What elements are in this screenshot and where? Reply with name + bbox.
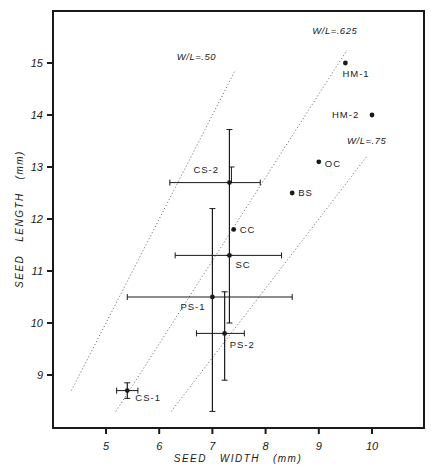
- ratio-line-label: W/L=.75: [347, 135, 386, 146]
- data-point-label: CS-1: [135, 392, 161, 403]
- x-tick-label: 8: [263, 440, 270, 452]
- x-axis-title: SEED WIDTH (mm): [174, 453, 303, 464]
- ratio-line: [71, 71, 235, 391]
- data-point-marker: [231, 227, 236, 232]
- ratio-line: [116, 50, 347, 411]
- data-point-marker: [370, 113, 375, 118]
- y-tick-label: 10: [31, 317, 44, 329]
- ratio-line: [171, 157, 367, 412]
- y-tick-label: 14: [31, 109, 43, 121]
- x-tick-label: 10: [366, 440, 379, 452]
- data-point-group: PS-1: [127, 209, 292, 412]
- y-axis: 9101112131415: [31, 57, 53, 381]
- data-point-label: CS-2: [193, 164, 219, 175]
- y-tick-label: 9: [37, 369, 43, 381]
- x-tick-label: 6: [156, 440, 163, 452]
- data-point-marker: [222, 331, 227, 336]
- data-point-label: OC: [325, 158, 341, 169]
- data-point-group: CC: [231, 224, 255, 235]
- y-tick-label: 12: [31, 213, 43, 225]
- x-tick-label: 7: [209, 440, 216, 452]
- data-point-label: SC: [235, 259, 250, 270]
- data-point-marker: [125, 388, 130, 393]
- seed-dimension-scatter-chart: W/L=.50W/L=.625W/L=.75 5678910 910111213…: [0, 0, 431, 471]
- data-point-marker: [227, 253, 232, 258]
- x-tick-label: 5: [103, 440, 110, 452]
- data-point-group: HM-1: [342, 61, 369, 79]
- data-point-label: BS: [298, 187, 313, 198]
- x-axis: 5678910: [103, 428, 379, 452]
- data-point-marker: [316, 159, 321, 164]
- y-axis-title: SEED LENGTH (mm): [14, 150, 25, 288]
- data-point-label: CC: [240, 224, 256, 235]
- data-points: HM-1HM-2OCBSCS-2CCSCPS-1PS-2CS-1: [117, 61, 375, 412]
- data-point-marker: [343, 61, 348, 66]
- data-point-group: SC: [175, 252, 281, 323]
- data-point-label: PS-1: [180, 301, 205, 312]
- y-tick-label: 13: [31, 161, 44, 173]
- x-tick-label: 9: [316, 440, 322, 452]
- data-point-marker: [210, 295, 215, 300]
- data-point-group: CS-2: [170, 130, 260, 256]
- data-point-marker: [227, 180, 232, 185]
- data-point-label: PS-2: [230, 339, 255, 350]
- y-tick-label: 11: [32, 265, 43, 277]
- y-tick-label: 15: [31, 57, 44, 69]
- data-point-label: HM-2: [332, 109, 359, 120]
- data-point-group: HM-2: [332, 109, 374, 120]
- data-point-group: OC: [316, 158, 341, 169]
- ratio-line-label: W/L=.50: [177, 51, 216, 62]
- data-point-label: HM-1: [342, 68, 369, 79]
- data-point-group: BS: [290, 187, 313, 198]
- ratio-line-label: W/L=.625: [312, 25, 357, 36]
- data-point-marker: [290, 191, 295, 196]
